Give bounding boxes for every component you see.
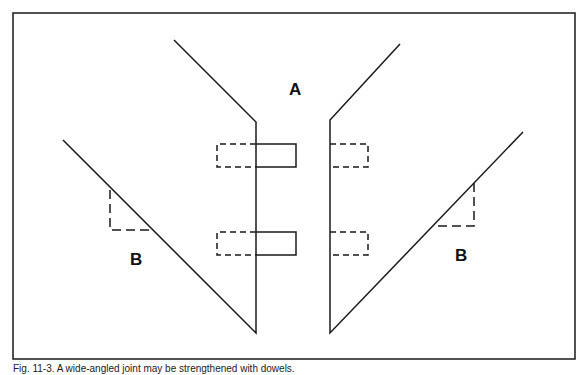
label-b-right: B: [455, 246, 467, 265]
figure-frame: [13, 13, 575, 359]
label-a: A: [289, 80, 301, 99]
left-board-outline: [63, 40, 256, 333]
right-board-outline: [330, 44, 523, 333]
label-b-left: B: [130, 250, 142, 269]
figure-caption: Fig. 11-3. A wide-angled joint may be st…: [13, 363, 295, 375]
left-angle-marker: [110, 190, 152, 230]
upper-dowel: [217, 144, 368, 167]
lower-dowel: [217, 232, 368, 255]
